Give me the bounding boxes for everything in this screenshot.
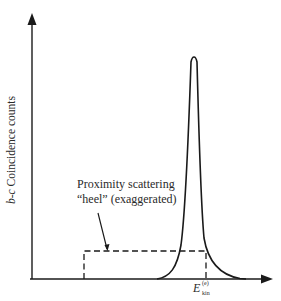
coincidence-peak-curve (157, 57, 246, 279)
y-axis-arrow-icon (28, 13, 37, 25)
leader-arrowhead-icon (105, 244, 110, 251)
x-label-subscript: kin (202, 290, 210, 296)
annotation-line-2: “heel” (exaggerated) (77, 192, 177, 207)
heel-annotation: Proximity scattering “heel” (exaggerated… (77, 177, 177, 207)
heel-dashed-box (84, 251, 206, 279)
coincidence-spectrum-diagram: b-c Coincidence counts Proximity scatter… (0, 0, 281, 301)
diagram-canvas (0, 0, 281, 301)
x-label-superscript: (e) (202, 280, 209, 286)
annotation-leader-line (98, 213, 107, 249)
x-axis-arrow-icon (261, 275, 273, 284)
annotation-line-1: Proximity scattering (77, 177, 177, 192)
x-axis-label: E (e) kin (193, 281, 200, 296)
x-label-symbol: E (193, 281, 200, 295)
y-axis-label: b-c Coincidence counts (5, 96, 17, 204)
